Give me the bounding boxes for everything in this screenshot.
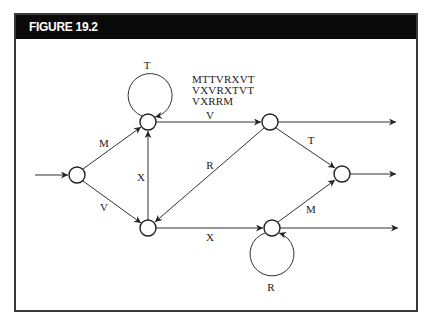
node-top-right	[262, 114, 278, 130]
label-top-left-to-top-right: V	[206, 109, 214, 121]
label-top-right-to-bottom-left: R	[206, 159, 214, 171]
label-start-to-bottom: V	[100, 201, 108, 213]
edge-start-to-bottom-left	[83, 181, 141, 223]
node-start	[69, 167, 85, 183]
loop-top-left	[128, 74, 172, 117]
label-loop-top: T	[144, 59, 151, 71]
label-bottom-to-top: X	[137, 171, 145, 183]
label-bottom-right-to-right: M	[306, 203, 316, 215]
edge-top-right-to-bottom-left	[155, 128, 264, 222]
node-bottom-left	[140, 220, 156, 236]
edge-top-right-to-right	[276, 128, 335, 168]
label-loop-bottom: R	[267, 281, 275, 293]
node-bottom-right	[264, 220, 280, 236]
edge-start-to-top-left	[83, 127, 141, 169]
node-top-left	[140, 114, 156, 130]
loop-bottom-right	[250, 233, 294, 276]
node-right	[334, 166, 350, 182]
label-top-right-to-right: T	[308, 134, 315, 146]
label-bottom-left-to-bottom-right: X	[206, 231, 214, 243]
state-diagram: T M V X V R X T M R MTTVRXVT VXVRXTVT VX…	[0, 0, 427, 321]
edge-bottom-right-to-right	[278, 180, 335, 222]
label-start-to-top: M	[99, 137, 109, 149]
sequence-3: VXRRM	[192, 95, 233, 107]
